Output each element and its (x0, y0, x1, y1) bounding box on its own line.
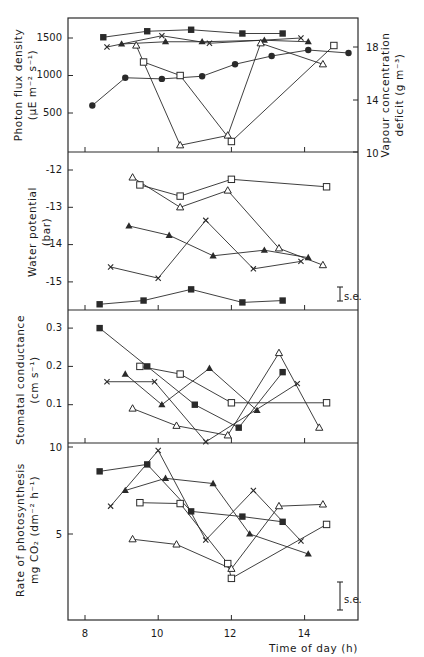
series-line-filled-circle (92, 50, 348, 106)
filled-triangle-marker (162, 38, 169, 44)
open-square-marker (228, 400, 234, 406)
filled-circle-marker (159, 76, 165, 82)
stomatal-ylabel-line2: (cm s⁻¹) (28, 356, 40, 404)
stomatal-ylabel-line1: Stomatal conductance (14, 315, 26, 445)
filled-circle-marker (345, 50, 351, 56)
open-triangle-marker (224, 132, 231, 138)
ytick: -13 (46, 201, 62, 212)
open-square-marker (323, 400, 329, 406)
open-triangle-marker (129, 174, 136, 180)
series-line-filled-triangle (129, 226, 308, 258)
open-square-marker (331, 42, 337, 48)
open-square-marker (140, 59, 146, 65)
xtick: 14 (298, 628, 311, 639)
filled-square-marker (144, 461, 150, 467)
x-axis: 8 10 12 14 Time of day (h) (82, 628, 358, 654)
right-ytick: 10 (366, 148, 379, 159)
cross-marker (203, 537, 208, 542)
xtick: 8 (82, 628, 88, 639)
panel-frames (68, 18, 358, 620)
filled-square-marker (100, 34, 106, 40)
filled-square-marker (96, 325, 102, 331)
filled-square-marker (279, 30, 285, 36)
filled-triangle-marker (122, 370, 129, 376)
filled-square-marker (239, 513, 245, 519)
filled-square-marker (239, 30, 245, 36)
open-triangle-marker (129, 405, 136, 411)
filled-triangle-marker (261, 246, 268, 252)
open-triangle-marker (275, 349, 282, 355)
filled-triangle-marker (125, 222, 132, 228)
se-label-photosynthesis: s.e. (344, 594, 362, 605)
filled-square-marker (279, 297, 285, 303)
filled-circle-marker (268, 53, 274, 59)
filled-triangle-marker (158, 401, 165, 407)
figure: Photon flux density (µE m⁻² s⁻¹) 1500 10… (0, 0, 424, 657)
filled-circle-marker (232, 61, 238, 67)
panel-photon-yticks: 1500 1000 500 (37, 32, 62, 118)
ytick: -14 (46, 238, 62, 249)
filled-square-marker (144, 363, 150, 369)
ytick: -12 (46, 164, 62, 175)
cross-marker (203, 218, 208, 223)
filled-square-marker (279, 369, 285, 375)
open-triangle-marker (275, 502, 282, 508)
photon-ylabel-line2: (µE m⁻² s⁻¹) (26, 50, 38, 121)
filled-square-marker (96, 468, 102, 474)
filled-triangle-marker (305, 38, 312, 44)
open-square-marker (323, 184, 329, 190)
open-square-marker (137, 363, 143, 369)
ytick: 500 (43, 107, 62, 118)
ytick: 0.2 (46, 360, 62, 371)
se-bars: s.e. s.e. (344, 291, 362, 605)
open-square-marker (177, 371, 183, 377)
filled-triangle-marker (206, 365, 213, 371)
open-square-marker (225, 560, 231, 566)
series-line-cross (111, 450, 301, 540)
open-square-marker (177, 72, 183, 78)
right-ytick: 14 (366, 95, 379, 106)
open-square-marker (177, 193, 183, 199)
series-line-cross (107, 382, 297, 442)
open-square-marker (323, 521, 329, 527)
panel-photon-ylabel: Photon flux density (µE m⁻² s⁻¹) (12, 29, 38, 142)
outer-frame (68, 18, 358, 620)
right-ytick: 18 (366, 42, 379, 53)
open-triangle-marker (319, 501, 326, 507)
ytick: 0.3 (46, 322, 62, 333)
filled-square-marker (188, 27, 194, 33)
filled-circle-marker (89, 102, 95, 108)
filled-square-marker (192, 402, 198, 408)
panel-water-labels: Water potential (bar) -12 -13 -14 -15 (26, 164, 62, 287)
ytick: 1000 (37, 69, 62, 80)
filled-square-marker (236, 424, 242, 430)
xtick: 12 (224, 628, 237, 639)
ytick: 0.1 (46, 398, 62, 409)
cross-marker (108, 504, 113, 509)
filled-square-marker (188, 286, 194, 292)
ytick: 5 (56, 529, 62, 540)
filled-square-marker (140, 297, 146, 303)
ytick: 10 (49, 442, 62, 453)
photosynthesis-ylabel-line2: mg CO₂ (dm⁻² h⁻¹) (28, 476, 40, 584)
filled-triangle-marker (199, 38, 206, 44)
filled-square-marker (188, 508, 194, 514)
filled-circle-marker (305, 47, 311, 53)
open-square-marker (228, 176, 234, 182)
series-line-filled-triangle (122, 40, 309, 44)
cross-marker (203, 439, 208, 444)
ytick: 1500 (37, 32, 62, 43)
open-square-marker (137, 499, 143, 505)
open-triangle-marker (224, 187, 231, 193)
series-line-cross (111, 220, 301, 278)
cross-marker (251, 488, 256, 493)
series-line-open-triangle (133, 504, 323, 568)
filled-circle-marker (199, 73, 205, 79)
series-line-open-triangle (136, 43, 323, 145)
vcd-ylabel-line2: deficit (g m⁻³) (393, 53, 405, 136)
filled-square-marker (279, 519, 285, 525)
ytick: -15 (46, 276, 62, 287)
filled-square-marker (144, 28, 150, 34)
x-axis-title: Time of day (h) (268, 642, 358, 654)
series-line-filled-triangle (125, 478, 308, 554)
